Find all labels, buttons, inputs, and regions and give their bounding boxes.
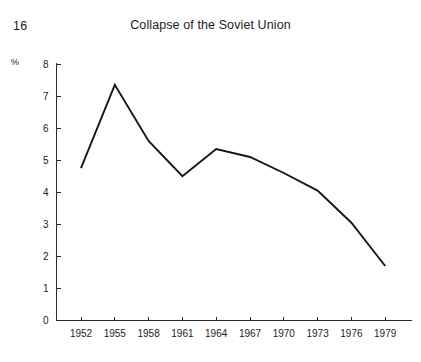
y-tick-label: 4	[43, 187, 49, 198]
x-tick-label: 1952	[70, 328, 93, 339]
x-tick-label: 1967	[239, 328, 262, 339]
x-tick-label: 1979	[374, 328, 397, 339]
x-tick-label: 1970	[273, 328, 296, 339]
x-tick-label: 1958	[137, 328, 160, 339]
y-tick-label: 0	[43, 315, 49, 326]
y-tick-label: 8	[43, 59, 49, 70]
data-series-line	[81, 85, 385, 266]
y-tick-label: 6	[43, 123, 49, 134]
x-tick-label: 1964	[205, 328, 228, 339]
x-axis-ticks: 1952195519581961196419671970197319761979	[70, 317, 397, 339]
line-chart-plot: 012345678 195219551958196119641967197019…	[0, 0, 421, 362]
y-axis-ticks: 012345678	[43, 59, 61, 327]
x-tick-label: 1976	[340, 328, 363, 339]
y-tick-label: 1	[43, 283, 49, 294]
y-tick-label: 7	[43, 91, 49, 102]
x-tick-label: 1955	[104, 328, 127, 339]
y-tick-label: 5	[43, 155, 49, 166]
figure-container: 16 Collapse of the Soviet Union % 012345…	[0, 0, 421, 362]
y-tick-label: 3	[43, 219, 49, 230]
x-tick-label: 1973	[306, 328, 329, 339]
x-tick-label: 1961	[171, 328, 194, 339]
y-tick-label: 2	[43, 251, 49, 262]
